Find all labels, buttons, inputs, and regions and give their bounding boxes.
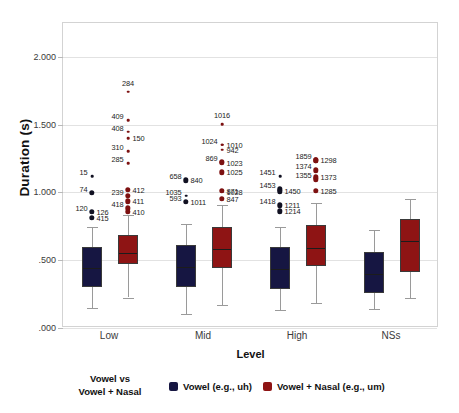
whisker-cap-upper <box>311 203 322 204</box>
outlier-label: 415 <box>97 213 109 222</box>
boxplot-figure: Duration (s) .000.5001.0001.5002.000 157… <box>0 0 459 413</box>
plot-area: .000.5001.0001.5002.000 1574120126415284… <box>62 22 438 327</box>
whisker-lower <box>374 293 375 309</box>
box-rect <box>176 245 196 287</box>
outlier-label: 1016 <box>214 110 230 119</box>
legend-entry-vowel: Vowel (e.g., uh) <box>169 381 252 392</box>
whisker-cap-lower <box>181 314 192 315</box>
box-rect <box>270 247 290 289</box>
whisker-cap-lower <box>217 305 228 306</box>
outlier-label: 1025 <box>227 168 243 177</box>
whisker-upper <box>374 230 375 252</box>
outlier-label: 284 <box>122 78 134 87</box>
outlier-label: 150 <box>133 133 145 142</box>
median-line <box>177 267 195 268</box>
outlier-label: 1298 <box>321 156 337 165</box>
outlier-label: 285 <box>111 155 123 164</box>
outlier-label: 1373 <box>321 173 337 182</box>
whisker-upper <box>186 224 187 245</box>
outlier-label: 847 <box>227 194 239 203</box>
y-tick-label: .500 <box>38 255 56 265</box>
outlier-label: 411 <box>133 197 144 206</box>
y-tick-mark <box>58 328 63 329</box>
outlier-point <box>221 148 224 151</box>
outlier-label: 1355 <box>295 171 311 180</box>
outlier-label: 1023 <box>227 158 243 167</box>
outlier-label: 418 <box>111 200 123 209</box>
outlier-label: 120 <box>75 204 87 213</box>
x-tick-label-nss: NSs <box>382 330 401 341</box>
outlier-point <box>221 190 224 193</box>
whisker-upper <box>92 227 93 247</box>
outlier-point <box>221 123 224 126</box>
outlier-label: 840 <box>191 176 203 185</box>
outlier-label: 409 <box>111 112 123 121</box>
median-line <box>271 269 289 270</box>
whisker-upper <box>410 199 411 219</box>
whisker-cap-upper <box>217 205 228 206</box>
outlier-point <box>127 130 130 133</box>
legend: Vowel vs Vowel + Nasal Vowel (e.g., uh) … <box>62 366 439 406</box>
outlier-point <box>279 175 282 178</box>
gridline <box>63 328 437 329</box>
median-line <box>401 241 419 242</box>
y-tick-label: 1.000 <box>33 187 56 197</box>
whisker-upper <box>222 205 223 226</box>
outlier-label: 412 <box>133 186 145 195</box>
outlier-point <box>91 175 94 178</box>
y-tick-label: .000 <box>38 323 56 333</box>
median-line <box>307 248 325 249</box>
whisker-lower <box>410 272 411 298</box>
outlier-label: 74 <box>79 184 87 193</box>
whisker-lower <box>316 266 317 303</box>
whisker-cap-lower <box>275 310 286 311</box>
outlier-point <box>127 119 130 122</box>
outlier-label: 1453 <box>259 181 275 190</box>
box-rect <box>400 219 420 272</box>
whisker-cap-upper <box>275 227 286 228</box>
outlier-label: 239 <box>111 187 123 196</box>
outlier-label: 1451 <box>259 168 275 177</box>
outlier-point <box>127 162 130 165</box>
outlier-label: 1024 <box>201 136 217 145</box>
whisker-cap-lower <box>123 298 134 299</box>
boxplot-low-vowel-nasal <box>118 23 138 328</box>
outlier-label: 1011 <box>191 197 207 206</box>
outlier-label: 1418 <box>259 197 275 206</box>
median-line <box>83 268 101 269</box>
whisker-lower <box>92 287 93 309</box>
median-line <box>119 253 137 254</box>
outlier-label: 658 <box>169 172 181 181</box>
whisker-upper <box>316 203 317 225</box>
y-tick-mark <box>58 125 63 126</box>
box-rect <box>212 227 232 268</box>
boxplot-nss-vowel <box>364 23 384 328</box>
legend-swatch-vowel-icon <box>169 382 178 391</box>
x-tick-label-high: High <box>287 330 308 341</box>
outlier-point <box>185 200 188 203</box>
outlier-label: 1285 <box>321 187 337 196</box>
outlier-label: 15 <box>79 168 87 177</box>
whisker-upper <box>280 227 281 247</box>
median-line <box>213 249 231 250</box>
outlier-point <box>185 179 188 182</box>
outlier-label: 408 <box>111 123 123 132</box>
median-line <box>365 274 383 275</box>
outlier-label: 1035 <box>165 187 181 196</box>
outlier-label: 1450 <box>285 187 301 196</box>
boxplot-nss-vowel-nasal <box>400 23 420 328</box>
outlier-point <box>185 195 188 198</box>
outlier-label: 1859 <box>295 152 311 161</box>
outlier-point <box>127 137 130 140</box>
whisker-upper <box>128 215 129 235</box>
y-tick-mark <box>58 260 63 261</box>
x-tick-label-low: Low <box>100 330 118 341</box>
whisker-lower <box>128 264 129 297</box>
y-tick-mark <box>58 57 63 58</box>
legend-label-vowel-nasal: Vowel + Nasal (e.g., um) <box>277 381 385 392</box>
legend-label-vowel: Vowel (e.g., uh) <box>183 381 252 392</box>
whisker-cap-upper <box>181 224 192 225</box>
whisker-cap-upper <box>405 199 416 200</box>
box-rect <box>82 247 102 286</box>
whisker-cap-lower <box>87 308 98 309</box>
